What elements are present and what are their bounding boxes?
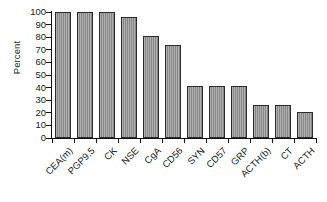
x-axis-tick-mark [184, 139, 185, 143]
y-axis-tick-label: 50 [35, 69, 46, 80]
plot-area [52, 12, 316, 138]
y-axis-tick-label: 70 [35, 44, 46, 55]
x-axis-tick-mark [140, 139, 141, 143]
y-axis-tick-label: 40 [35, 82, 46, 93]
bar [275, 105, 290, 138]
x-axis-tick-mark [250, 139, 251, 143]
y-axis-tick-mark [46, 138, 51, 139]
y-axis-tick-label: 80 [35, 31, 46, 42]
y-axis-tick-mark [46, 112, 51, 113]
bar [77, 12, 92, 138]
bar [143, 36, 158, 138]
bar [297, 112, 312, 138]
x-axis-tick-mark [118, 139, 119, 143]
bar [253, 105, 268, 138]
bar [209, 86, 224, 138]
y-axis-tick-label: 60 [35, 56, 46, 67]
x-axis-tick-mark [96, 139, 97, 143]
y-axis-tick-label: 90 [35, 19, 46, 30]
y-axis-tick-mark [46, 37, 51, 38]
y-axis-tick-mark [46, 49, 51, 50]
y-axis-tick-mark [46, 100, 51, 101]
bar [99, 12, 114, 138]
y-axis-title: Percent [11, 12, 22, 104]
y-axis-tick-mark [46, 87, 51, 88]
bar [187, 86, 202, 138]
bar-chart: Percent 0102030405060708090100 CEA(m)PGP… [0, 0, 327, 202]
x-axis-tick-mark [206, 139, 207, 143]
x-axis-tick-mark [74, 139, 75, 143]
bar [231, 86, 246, 138]
x-axis-tick-mark [294, 139, 295, 143]
x-axis-tick-mark [52, 139, 53, 143]
y-axis-tick-label: 0 [41, 132, 46, 143]
y-axis-tick-mark [46, 75, 51, 76]
x-axis-tick-mark [228, 139, 229, 143]
y-axis-tick-mark [46, 12, 51, 13]
y-axis-tick-label: 10 [35, 119, 46, 130]
x-axis-tick-mark [316, 139, 317, 143]
bar [165, 45, 180, 138]
x-axis-tick-mark [162, 139, 163, 143]
x-axis-tick-mark [272, 139, 273, 143]
bar [55, 12, 70, 138]
y-axis-tick-label: 30 [35, 94, 46, 105]
y-axis-tick-mark [46, 62, 51, 63]
y-axis-tick-mark [46, 24, 51, 25]
y-axis-tick-label: 20 [35, 107, 46, 118]
y-axis-tick-label: 100 [30, 6, 46, 17]
y-axis-tick-mark [46, 125, 51, 126]
bar [121, 17, 136, 138]
